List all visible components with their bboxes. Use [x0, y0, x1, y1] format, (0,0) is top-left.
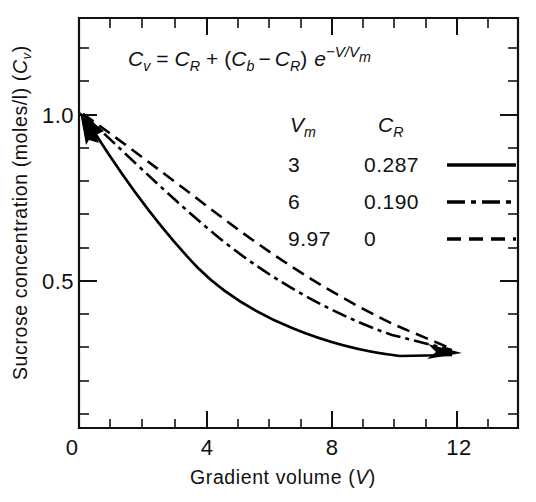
legend-vm-value-2: 6 — [288, 190, 300, 213]
x-ticklabel-8: 8 — [326, 435, 339, 460]
x-axis-ticks-top — [110, 18, 488, 35]
eq-term1-sub: R — [190, 58, 200, 74]
eq-term3: C — [275, 47, 291, 70]
x-ticklabel-0: 0 — [66, 435, 79, 460]
curve-vm-997 — [83, 114, 452, 349]
eq-term2: C — [231, 47, 247, 70]
legend-vm-value-1: 3 — [288, 153, 300, 176]
eq-exp-power-sub: m — [359, 49, 371, 65]
sucrose-gradient-chart: Cv=CR+(Cb−CR)e−V/Vm Vm CR 3 0.287 6 0.19… — [0, 0, 536, 502]
eq-plus: + — [206, 47, 218, 70]
eq-exp-power: −V/V — [326, 43, 361, 60]
curve-vm-6 — [83, 114, 452, 350]
legend-vm-value-3: 9.97 — [288, 227, 331, 250]
legend-cr-value-2: 0.190 — [364, 190, 419, 213]
x-axis-ticks-bottom — [79, 411, 488, 428]
x-axis-title: Gradient volume (V) — [190, 466, 376, 488]
legend-header-vm: Vm — [290, 113, 316, 140]
y-ticklabel-1: 1.0 — [42, 103, 74, 128]
y-ticklabel-0: 0.5 — [42, 269, 74, 294]
y-axis-title: Sucrose concentration (moles/l) (Cv) — [9, 45, 34, 380]
legend-row-2: 6 0.190 — [288, 190, 516, 213]
eq-close-paren: ) — [300, 47, 307, 70]
legend-cr-value-3: 0 — [364, 227, 376, 250]
eq-open-paren: ( — [224, 47, 231, 70]
legend-cr-value-1: 0.287 — [364, 153, 419, 176]
y-axis-ticks-right-inward — [500, 48, 518, 414]
model-equation: Cv=CR+(Cb−CR)e−V/Vm — [128, 43, 371, 74]
plot-frame — [79, 18, 518, 428]
eq-lhs-sub: v — [143, 58, 151, 74]
eq-term3-sub: R — [290, 58, 300, 74]
eq-exp-base: e — [314, 47, 326, 70]
eq-term1: C — [175, 47, 191, 70]
y-axis-ticks-left-inward — [79, 48, 97, 414]
eq-lhs: C — [128, 47, 144, 70]
legend-row-1: 3 0.287 — [288, 153, 516, 176]
x-ticklabel-4: 4 — [201, 435, 214, 460]
figure-container: Cv=CR+(Cb−CR)e−V/Vm Vm CR 3 0.287 6 0.19… — [0, 0, 536, 502]
eq-equals: = — [156, 47, 168, 70]
x-ticklabel-12: 12 — [446, 435, 471, 460]
legend-header-cr: CR — [378, 113, 403, 140]
eq-term2-sub: b — [247, 58, 255, 74]
curve-vm-3 — [83, 114, 452, 356]
legend-row-3: 9.97 0 — [288, 227, 516, 250]
legend: Vm CR 3 0.287 6 0.190 9.97 0 — [288, 113, 516, 250]
eq-minus: − — [258, 47, 270, 70]
